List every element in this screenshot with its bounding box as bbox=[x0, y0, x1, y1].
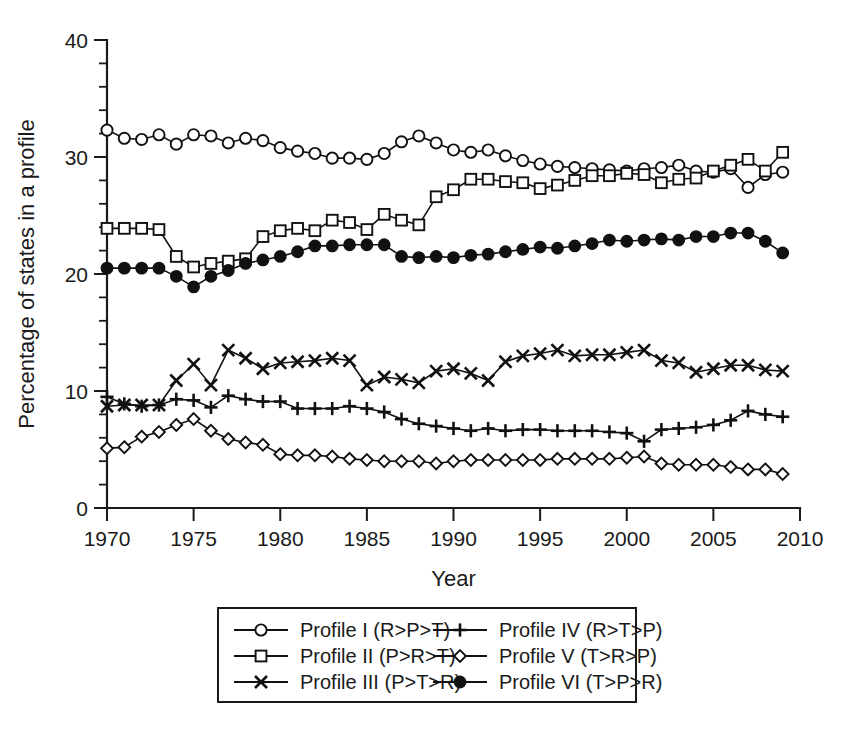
marker-filled-circle bbox=[153, 263, 164, 274]
marker-open-circle bbox=[379, 148, 390, 159]
marker-open-circle bbox=[119, 133, 130, 144]
marker-open-circle bbox=[309, 148, 320, 159]
marker-open-square bbox=[483, 174, 494, 185]
x-tick-label: 1985 bbox=[344, 527, 391, 550]
marker-open-square bbox=[171, 251, 182, 262]
marker-open-square bbox=[119, 223, 130, 234]
marker-open-circle bbox=[361, 154, 372, 165]
marker-filled-circle bbox=[500, 246, 511, 257]
marker-open-circle bbox=[742, 182, 753, 193]
marker-open-square bbox=[691, 173, 702, 184]
marker-open-square bbox=[535, 183, 546, 194]
marker-open-circle bbox=[255, 624, 266, 635]
legend-item-label: Profile V (T>R>P) bbox=[499, 645, 657, 667]
marker-open-square bbox=[621, 168, 632, 179]
legend-item-label: Profile VI (T>P>R) bbox=[499, 671, 662, 693]
marker-filled-circle bbox=[604, 234, 615, 245]
marker-open-circle bbox=[517, 155, 528, 166]
y-tick-label: 40 bbox=[65, 29, 88, 52]
x-axis-title: Year bbox=[431, 566, 475, 591]
x-tick-label: 1995 bbox=[517, 527, 564, 550]
marker-open-circle bbox=[569, 162, 580, 173]
marker-open-square bbox=[102, 223, 113, 234]
marker-open-square bbox=[708, 166, 719, 177]
marker-open-square bbox=[517, 177, 528, 188]
marker-open-circle bbox=[188, 129, 199, 140]
marker-open-circle bbox=[223, 137, 234, 148]
marker-filled-circle bbox=[535, 241, 546, 252]
marker-open-circle bbox=[552, 161, 563, 172]
y-tick-label: 10 bbox=[65, 380, 88, 403]
marker-filled-circle bbox=[777, 247, 788, 258]
chart-legend[interactable]: Profile I (R>P>T)Profile II (P>R>T)Profi… bbox=[218, 608, 662, 702]
marker-open-circle bbox=[171, 139, 182, 150]
marker-open-circle bbox=[275, 142, 286, 153]
marker-filled-circle bbox=[621, 236, 632, 247]
marker-filled-circle bbox=[396, 251, 407, 262]
marker-filled-circle bbox=[379, 239, 390, 250]
marker-open-square bbox=[569, 175, 580, 186]
x-tick-label: 1990 bbox=[430, 527, 477, 550]
marker-open-square bbox=[310, 225, 321, 236]
legend-item-label: Profile I (R>P>T) bbox=[300, 619, 450, 641]
marker-filled-circle bbox=[119, 263, 130, 274]
marker-open-circle bbox=[292, 146, 303, 157]
marker-filled-circle bbox=[552, 243, 563, 254]
marker-open-square bbox=[656, 177, 667, 188]
marker-filled-circle bbox=[344, 239, 355, 250]
marker-filled-circle bbox=[136, 263, 147, 274]
marker-filled-circle bbox=[101, 263, 112, 274]
marker-open-square bbox=[344, 217, 355, 228]
marker-filled-circle bbox=[638, 234, 649, 245]
marker-filled-circle bbox=[327, 240, 338, 251]
marker-filled-circle bbox=[431, 251, 442, 262]
marker-filled-circle bbox=[413, 252, 424, 263]
x-tick-label: 2000 bbox=[603, 527, 650, 550]
marker-open-circle bbox=[396, 136, 407, 147]
marker-open-circle bbox=[465, 147, 476, 158]
marker-open-circle bbox=[500, 150, 511, 161]
marker-open-square bbox=[154, 224, 165, 235]
marker-open-square bbox=[725, 160, 736, 171]
marker-open-square bbox=[379, 209, 390, 220]
marker-open-square bbox=[396, 215, 407, 226]
marker-filled-circle bbox=[656, 233, 667, 244]
x-tick-label: 1970 bbox=[84, 527, 131, 550]
line-chart: 0102030401970197519801985199019952000200… bbox=[0, 0, 848, 732]
y-tick-label: 30 bbox=[65, 146, 88, 169]
x-tick-label: 2005 bbox=[690, 527, 737, 550]
marker-open-square bbox=[777, 147, 788, 158]
marker-filled-circle bbox=[517, 244, 528, 255]
marker-filled-circle bbox=[483, 249, 494, 260]
marker-filled-circle bbox=[275, 251, 286, 262]
y-tick-label: 0 bbox=[76, 497, 88, 520]
marker-open-circle bbox=[136, 134, 147, 145]
marker-open-circle bbox=[431, 137, 442, 148]
marker-open-square bbox=[673, 174, 684, 185]
marker-open-square bbox=[760, 166, 771, 177]
figure-container: 0102030401970197519801985199019952000200… bbox=[0, 0, 848, 732]
x-tick-label: 1975 bbox=[170, 527, 217, 550]
y-axis-title: Percentage of states in a profile bbox=[14, 119, 39, 428]
marker-open-square bbox=[256, 651, 267, 662]
marker-open-circle bbox=[413, 130, 424, 141]
marker-open-square bbox=[275, 225, 286, 236]
marker-open-square bbox=[327, 215, 338, 226]
marker-filled-circle bbox=[454, 676, 465, 687]
marker-open-circle bbox=[240, 133, 251, 144]
marker-open-square bbox=[639, 169, 650, 180]
marker-open-circle bbox=[344, 153, 355, 164]
x-tick-label: 2010 bbox=[777, 527, 824, 550]
marker-open-square bbox=[292, 223, 303, 234]
marker-filled-circle bbox=[760, 236, 771, 247]
marker-open-square bbox=[465, 174, 476, 185]
marker-open-square bbox=[361, 224, 372, 235]
marker-open-circle bbox=[448, 144, 459, 155]
marker-open-circle bbox=[673, 160, 684, 171]
marker-filled-circle bbox=[292, 246, 303, 257]
marker-open-circle bbox=[656, 162, 667, 173]
marker-open-circle bbox=[257, 135, 268, 146]
marker-open-square bbox=[206, 258, 217, 269]
marker-open-square bbox=[431, 191, 442, 202]
marker-filled-circle bbox=[725, 227, 736, 238]
